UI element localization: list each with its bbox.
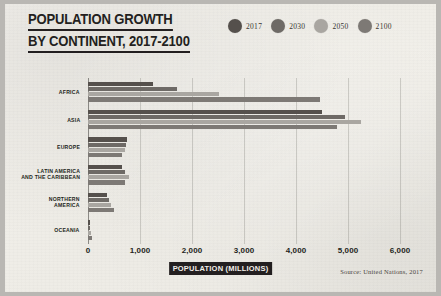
gridline-2000 [192,78,193,244]
bar-2017 [88,110,322,114]
bar-group-latin-america-and-the-caribbean: LATIN AMERICAAND THE CARIBBEAN [88,165,400,185]
chart-legend: 2017203020502100 [228,19,392,33]
legend-swatch-icon [228,19,242,33]
gridline-4000 [296,78,297,244]
page-title-line-2: BY CONTINENT, 2017-2100 [28,33,190,53]
x-tick-label: 4,000 [286,246,307,255]
legend-label: 2017 [246,22,262,31]
category-label: ASIA [67,116,80,123]
legend-item-2017: 2017 [228,19,262,33]
y-axis-line [88,78,89,244]
bar-2100 [88,125,337,129]
legend-swatch-icon [271,19,285,33]
legend-label: 2100 [376,22,392,31]
bar-2030 [88,198,109,202]
bar-2050 [88,120,361,124]
category-label: NORTHERNAMERICA [49,196,80,209]
category-label: OCEANIA [55,227,80,234]
bar-2050 [88,92,219,96]
bar-group-europe: EUROPE [88,137,400,157]
gridline-5000 [348,78,349,244]
bar-2050 [88,175,129,179]
bar-2030 [88,170,125,174]
bar-2100 [88,180,125,184]
bar-2050 [88,203,111,207]
bar-2017 [88,165,122,169]
page-title-line-1: POPULATION GROWTH [28,11,173,31]
x-tick-label: 5,000 [338,246,359,255]
category-label: EUROPE [57,144,80,151]
legend-label: 2030 [289,22,305,31]
bar-2030 [88,226,90,230]
legend-label: 2050 [332,22,348,31]
infographic-page: POPULATION GROWTH BY CONTINENT, 2017-210… [0,0,441,296]
bar-2050 [88,148,125,152]
category-label: AFRICA [59,89,80,96]
chart-header: POPULATION GROWTH BY CONTINENT, 2017-210… [0,0,441,62]
bar-2100 [88,208,114,212]
bar-group-oceania: OCEANIA [88,220,400,240]
bar-2030 [88,143,126,147]
bar-group-africa: AFRICA [88,82,400,102]
x-tick-label: 1,000 [130,246,151,255]
bar-group-northern-america: NORTHERNAMERICA [88,193,400,213]
bar-2100 [88,236,92,240]
x-tick-label: 3,000 [234,246,255,255]
x-axis-title: POPULATION (MILLIONS) [169,262,273,275]
gridline-1000 [140,78,141,244]
source-note: Source: United Nations, 2017 [340,268,423,275]
legend-swatch-icon [314,19,328,33]
bar-2030 [88,87,177,91]
page-title: POPULATION GROWTH BY CONTINENT, 2017-210… [28,11,190,55]
legend-swatch-icon [358,19,372,33]
x-tick-label: 0 [86,246,91,255]
gridline-6000 [400,78,401,244]
bar-2030 [88,115,345,119]
bar-2100 [88,153,122,157]
legend-item-2100: 2100 [358,19,392,33]
gridline-3000 [244,78,245,244]
bar-2050 [88,231,91,235]
bar-2017 [88,220,90,224]
legend-item-2030: 2030 [271,19,305,33]
bar-group-asia: ASIA [88,110,400,130]
x-tick-label: 2,000 [182,246,203,255]
bar-2017 [88,137,127,141]
x-tick-label: 6,000 [390,246,411,255]
bar-2017 [88,193,107,197]
bar-2100 [88,97,320,101]
legend-item-2050: 2050 [314,19,348,33]
bar-2017 [88,82,153,86]
chart-plot-area: AFRICAASIAEUROPELATIN AMERICAAND THE CAR… [88,78,400,244]
category-label: LATIN AMERICAAND THE CARIBBEAN [21,168,80,181]
